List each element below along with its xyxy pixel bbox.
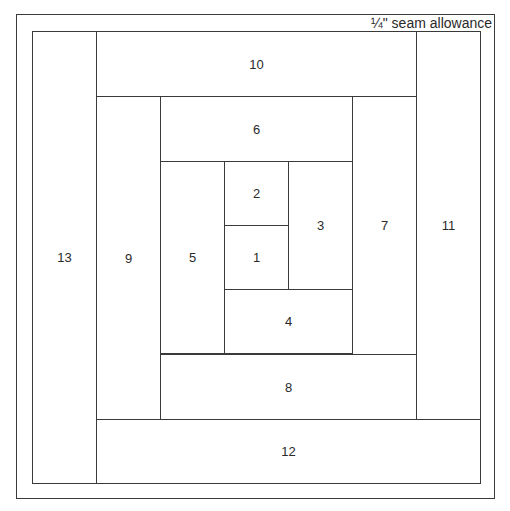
piece-8: 8 [160, 354, 417, 420]
piece-number: 2 [253, 186, 260, 201]
piece-number: 8 [285, 380, 292, 395]
piece-number: 4 [285, 314, 292, 329]
piece-7: 7 [352, 96, 417, 355]
piece-number: 13 [57, 250, 71, 265]
piece-12: 12 [96, 419, 481, 484]
piece-number: 7 [381, 218, 388, 233]
piece-13: 13 [32, 31, 97, 484]
seam-allowance-label: ¼" seam allowance [371, 15, 492, 31]
piece-2: 2 [224, 161, 289, 226]
piece-number: 9 [125, 251, 132, 266]
piece-number: 10 [249, 57, 263, 72]
piece-6: 6 [160, 96, 353, 162]
piece-number: 5 [189, 250, 196, 265]
piece-10: 10 [96, 31, 417, 97]
piece-5: 5 [160, 161, 225, 354]
piece-1: 1 [224, 225, 289, 290]
piece-number: 6 [253, 122, 260, 137]
piece-3: 3 [288, 161, 353, 290]
piece-number: 1 [253, 250, 260, 265]
piece-number: 3 [317, 218, 324, 233]
piece-11: 11 [416, 31, 481, 420]
piece-4: 4 [224, 289, 353, 354]
piece-number: 12 [281, 444, 295, 459]
piece-9: 9 [96, 96, 161, 420]
piece-number: 11 [442, 218, 456, 233]
